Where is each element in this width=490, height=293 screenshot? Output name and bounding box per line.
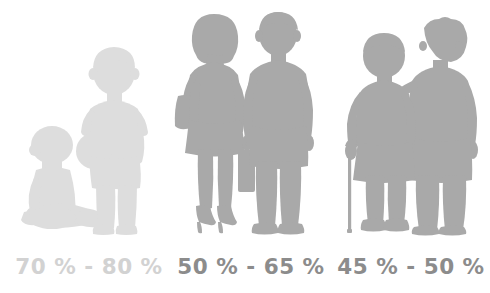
label-children-water-percentage: 70 % - 80 % xyxy=(8,252,170,282)
standing-boy-silhouette xyxy=(76,47,148,235)
label-seniors-water-percentage: 45 % - 50 % xyxy=(332,252,490,282)
figure-group-seniors xyxy=(340,0,490,245)
adult-woman-silhouette xyxy=(175,14,245,233)
body-water-infographic: 70 % - 80 % 50 % - 65 % 45 % - 50 % xyxy=(0,0,490,293)
figure-group-children xyxy=(14,0,164,245)
figure-group-adults xyxy=(176,0,326,245)
label-adults-water-percentage: 50 % - 65 % xyxy=(172,252,330,282)
elderly-woman-silhouette xyxy=(345,33,416,233)
percentage-label-row: 70 % - 80 % 50 % - 65 % 45 % - 50 % xyxy=(0,252,490,286)
adult-man-silhouette xyxy=(238,12,314,235)
